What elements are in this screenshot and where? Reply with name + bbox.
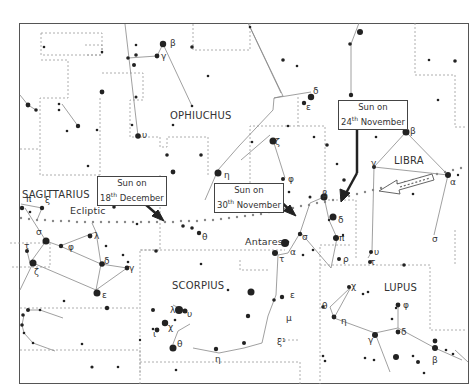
star-designation-label: η [215, 355, 221, 364]
sun-box-day: 30 [217, 200, 228, 210]
sun-box-month: November [361, 117, 405, 127]
star-designation-label: τ [370, 258, 375, 267]
star-designation-label: φ [403, 301, 409, 310]
star-designation-label: θ [177, 340, 183, 349]
star-designation-label: δ [338, 216, 344, 225]
star-designation-label: η [224, 171, 230, 180]
sun-box-line1: Sun on [341, 102, 405, 113]
sun-box-suffix: th [228, 198, 234, 205]
constellation-label-libra: LIBRA [394, 155, 424, 166]
star-chart: OPHIUCHUS SAGITTARIUS LIBRA SCORPIUS LUP… [0, 0, 476, 389]
star-designation-label: φ [288, 175, 294, 184]
star-designation-label: υ [187, 310, 192, 319]
sun-box-day: 18 [100, 193, 111, 203]
star-designation-label: ξ [45, 196, 50, 205]
antares-label: Antares [245, 236, 283, 247]
constellation-label-sagittarius: SAGITTARIUS [22, 189, 90, 200]
star-designation-label: θ [202, 233, 208, 242]
star-designation-label: υ [374, 248, 379, 257]
star-designation-label: α [450, 178, 456, 187]
constellation-label-scorpius: SCORPIUS [172, 280, 224, 291]
sun-box-line2: 30th November [217, 196, 281, 211]
star-designation-label: σ [302, 233, 308, 242]
star-designation-label: μ [286, 314, 292, 323]
star-designation-label: δ [401, 328, 407, 337]
sun-box-line1: Sun on [217, 185, 281, 196]
star-designation-label: τ [279, 255, 284, 264]
star-designation-label: υ [142, 131, 147, 140]
star-designation-label: τ [24, 242, 29, 251]
star-designation-label: γ [368, 336, 373, 345]
star-designation-label: γ [371, 159, 376, 168]
sun-box-30-november: Sun on 30th November [214, 183, 284, 213]
star-designation-label: ι [153, 330, 156, 339]
star-designation-label: ε [306, 103, 311, 112]
star-designation-label: π [339, 234, 344, 243]
sun-box-24-november: Sun on 24th November [338, 100, 408, 130]
sun-box-line2: 24th November [341, 113, 405, 128]
sun-box-month: December [120, 193, 164, 203]
ecliptic-label: Ecliptic [70, 205, 106, 216]
star-designation-label: χ [351, 282, 356, 291]
star-designation-label: π [26, 195, 31, 204]
star-designation-label: α [290, 248, 296, 257]
star-designation-label: β [410, 127, 416, 136]
sun-box-suffix: th [111, 191, 117, 198]
star-designation-label: θ [322, 302, 328, 311]
star-designation-label: ε [290, 291, 295, 300]
star-designation-label: β [170, 39, 176, 48]
star-designation-label: λ [170, 306, 175, 315]
star-designation-label: γ [129, 264, 134, 273]
star-designation-label: δ [104, 257, 110, 266]
star-designation-label: σ [432, 235, 438, 244]
sun-box-line1: Sun on [100, 178, 164, 189]
star-designation-label: ζ [275, 138, 280, 147]
sun-direction-arrow [379, 174, 434, 194]
star-designation-label: ζ [34, 268, 39, 277]
star-designation-label: δ [313, 87, 319, 96]
constellation-label-lupus: LUPUS [384, 282, 417, 293]
star-designation-label: η [341, 317, 347, 326]
star-designation-label: γ [161, 52, 166, 61]
star-designation-label: ξ¹ [277, 338, 286, 347]
star-designation-label: χ [168, 323, 173, 332]
star-designation-label: β [432, 356, 438, 365]
constellation-label-ophiuchus: OPHIUCHUS [170, 110, 232, 121]
sun-box-suffix: th [352, 115, 358, 122]
sun-box-line2: 18th December [100, 189, 164, 204]
star-designation-label: ε [102, 291, 107, 300]
star-designation-label: σ [36, 228, 42, 237]
star-designation-label: β [322, 190, 328, 199]
sun-box-18-december: Sun on 18th December [97, 176, 167, 206]
star-designation-label: λ [94, 232, 99, 241]
star-designation-label: φ [68, 243, 74, 252]
star-designation-label: ρ [343, 255, 349, 264]
sun-box-day: 24 [341, 117, 352, 127]
sun-box-month: November [237, 200, 281, 210]
